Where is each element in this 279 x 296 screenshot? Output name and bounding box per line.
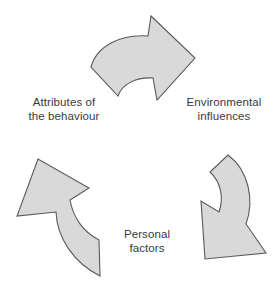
node-label-attributes: Attributes of the behaviour [8,96,120,123]
node-label-environmental-line2: influences [172,110,276,124]
node-label-attributes-line2: the behaviour [8,110,120,124]
right-curved-arrow [201,155,266,259]
node-label-personal-line1: Personal [108,228,186,242]
node-label-attributes-line1: Attributes of [8,96,120,110]
node-label-personal-line2: factors [108,242,186,256]
cycle-diagram: Attributes of the behaviour Environmenta… [0,0,279,296]
node-label-environmental-line1: Environmental [172,96,276,110]
node-label-personal: Personal factors [108,228,186,255]
node-label-environmental: Environmental influences [172,96,276,123]
top-curved-arrow [91,16,195,100]
left-curved-arrow [17,159,100,276]
